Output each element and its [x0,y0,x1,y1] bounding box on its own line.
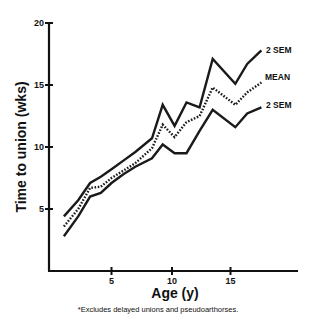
y-tick-label: 5 [39,204,44,214]
footnote: *Excludes delayed unions and pseudoartho… [0,305,316,314]
series-line-lower [64,107,262,236]
mean-label: MEAN [265,72,290,82]
line-chart: 5101520 51015 2 SEM MEAN 2 SEM Age (y) T… [0,0,316,319]
y-tick-label: 15 [34,80,44,90]
y-tick-label: 10 [34,142,44,152]
x-ticks: 51015 [109,267,236,286]
x-tick-label: 5 [109,276,114,286]
lower-sem-label: 2 SEM [266,100,292,110]
y-axis-title: Time to union (wks) [13,81,29,212]
x-tick-label: 15 [225,276,235,286]
upper-sem-label: 2 SEM [266,45,292,55]
y-tick-label: 20 [34,18,44,28]
x-axis-title: Age (y) [151,285,198,301]
series-group [64,50,262,236]
series-line-upper [64,50,262,216]
y-ticks: 5101520 [34,18,53,214]
